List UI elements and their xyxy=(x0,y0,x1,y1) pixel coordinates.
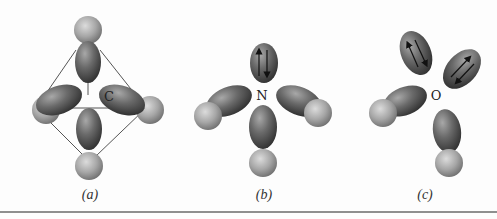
bonding-lobe-bottom xyxy=(76,108,102,150)
bonding-lobe-top xyxy=(75,41,101,83)
panel-label-a: (a) xyxy=(82,187,99,203)
substituent-sphere-right xyxy=(304,99,332,127)
substituent-sphere-bottom xyxy=(249,149,277,177)
panel-c: O (c) xyxy=(369,26,489,203)
figure-canvas: C (a) N (b) O (c) xyxy=(0,0,497,219)
substituent-sphere-left xyxy=(369,99,397,127)
central-atom-label-a: C xyxy=(104,89,114,104)
substituent-sphere-top xyxy=(74,16,102,44)
lone-pair-lobe-upper-right xyxy=(435,42,488,96)
substituent-sphere-left xyxy=(194,102,222,130)
central-atom-label-c: O xyxy=(431,88,442,103)
panel-label-c: (c) xyxy=(417,187,433,203)
panel-a: C (a) xyxy=(32,16,164,203)
panel-b: N (b) xyxy=(194,43,332,203)
panel-label-b: (b) xyxy=(256,187,273,203)
substituent-sphere-bottom xyxy=(75,152,103,180)
bonding-lobe-bottom xyxy=(430,107,464,154)
lone-pair-lobe-upper-left xyxy=(393,26,438,80)
bonding-lobe-bottom xyxy=(249,105,277,149)
lone-pair-lobe-top xyxy=(250,43,278,83)
orbital-figure: C (a) N (b) O (c) xyxy=(0,0,497,219)
substituent-sphere-bottom xyxy=(435,149,463,177)
central-atom-label-b: N xyxy=(256,88,267,103)
